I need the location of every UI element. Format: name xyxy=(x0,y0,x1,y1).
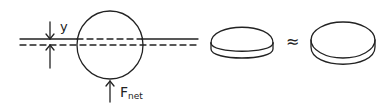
buoyancy-diagram xyxy=(0,0,390,108)
cylinder-disc-panel xyxy=(311,22,375,64)
cap-rim-outer xyxy=(211,43,273,58)
net-force-symbol: F xyxy=(120,84,128,100)
disc-top xyxy=(311,22,375,58)
net-force-label: Fnet xyxy=(120,85,143,101)
displacement-label-y: y xyxy=(60,20,68,33)
cap-top xyxy=(211,27,273,43)
cap-bottom-front xyxy=(211,43,273,51)
approximately-equal-symbol: ≈ xyxy=(286,34,299,50)
spherical-cap-panel xyxy=(211,27,273,58)
floating-sphere-panel xyxy=(20,11,198,102)
net-force-subscript: net xyxy=(128,91,143,101)
